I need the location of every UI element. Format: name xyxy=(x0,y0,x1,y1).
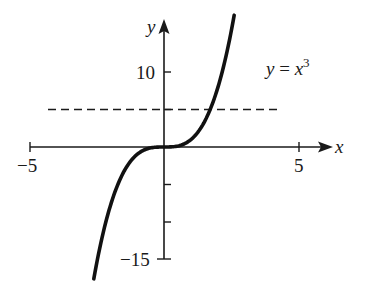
eq-exp: 3 xyxy=(303,55,310,70)
x-label-5: 5 xyxy=(294,155,304,176)
cubic-plot: −5 5 10 −15 x y y = x3 xyxy=(0,0,365,302)
x-axis-label: x xyxy=(334,136,344,157)
eq-op: = xyxy=(274,58,294,79)
eq-lhs: y xyxy=(264,58,275,79)
y-label-neg15: −15 xyxy=(120,249,150,270)
x-label-neg5: −5 xyxy=(17,155,37,176)
y-label-10: 10 xyxy=(136,62,155,83)
equation-label: y = x3 xyxy=(264,55,310,79)
y-axis-label: y xyxy=(145,16,156,37)
chart: −5 5 10 −15 x y y = x3 xyxy=(0,0,365,302)
